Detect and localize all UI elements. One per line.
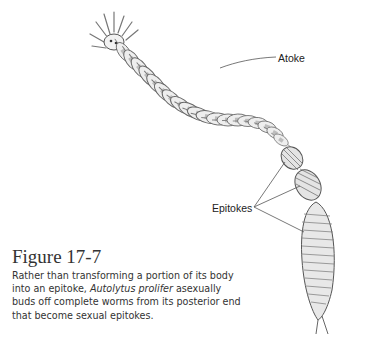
- epitoke-3: [302, 202, 335, 334]
- atoke-body: [110, 36, 293, 151]
- caption-text: Rather than transforming a portion of it…: [12, 269, 242, 322]
- atoke-label: Atoke: [278, 52, 305, 64]
- epitoke-2: [290, 165, 327, 205]
- figure-caption: Figure 17-7 Rather than transforming a p…: [12, 246, 242, 322]
- epitokes-label: Epitokes: [212, 202, 252, 214]
- epitoke-1: [277, 142, 308, 173]
- species-name: Autolytus prolifer: [90, 283, 173, 294]
- figure-title: Figure 17-7: [12, 246, 242, 268]
